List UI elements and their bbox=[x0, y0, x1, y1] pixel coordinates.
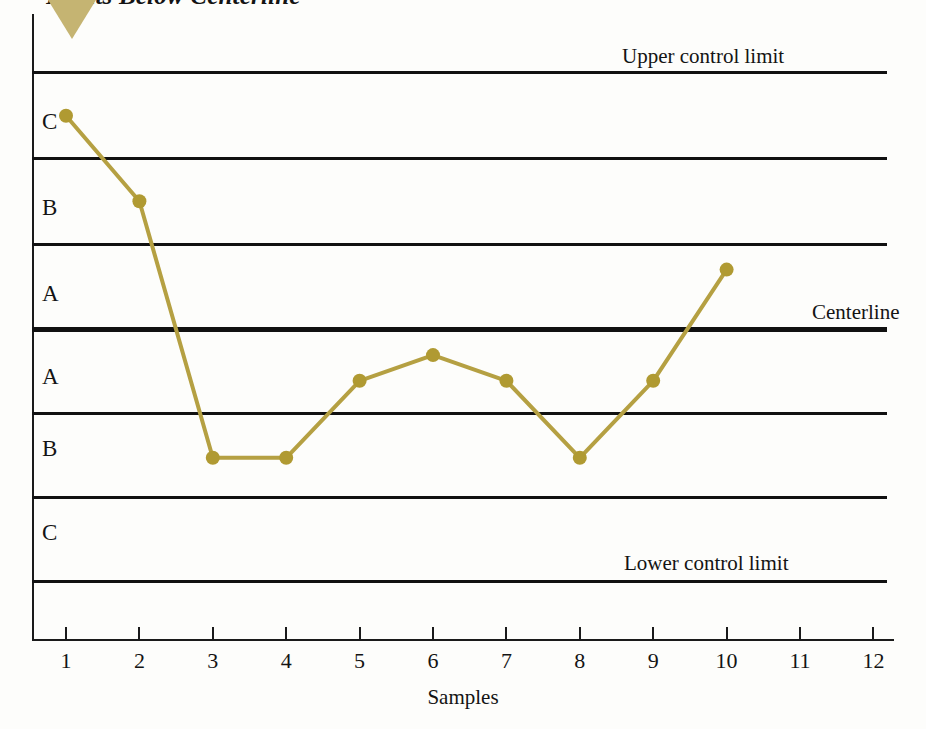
x-axis-tick-label: 2 bbox=[119, 648, 159, 674]
upper-control-limit-line bbox=[32, 71, 887, 74]
x-axis-tick bbox=[285, 627, 287, 640]
data-point-marker bbox=[132, 194, 146, 208]
x-axis-tick-label: 7 bbox=[486, 648, 526, 674]
lower-zone-b-c-line bbox=[32, 496, 887, 499]
x-axis-tick-label: 9 bbox=[633, 648, 673, 674]
data-point-marker bbox=[499, 374, 513, 388]
control-chart-figure: Points Below Centerline C B A A B C Uppe… bbox=[0, 0, 926, 729]
centerline-label: Centerline bbox=[812, 300, 899, 325]
x-axis-tick-label: 3 bbox=[193, 648, 233, 674]
x-axis-line bbox=[32, 639, 894, 641]
zone-label-lower-b: B bbox=[42, 437, 57, 460]
zone-label-upper-a: A bbox=[42, 282, 59, 305]
x-axis-tick-label: 11 bbox=[780, 648, 820, 674]
x-axis-tick-label: 8 bbox=[560, 648, 600, 674]
x-axis-tick-label: 1 bbox=[46, 648, 86, 674]
x-axis-tick-label: 5 bbox=[340, 648, 380, 674]
x-axis-tick bbox=[212, 627, 214, 640]
x-axis-tick bbox=[432, 627, 434, 640]
x-axis-tick-label: 10 bbox=[707, 648, 747, 674]
upper-zone-c-b-line bbox=[32, 157, 887, 160]
zone-label-lower-c: C bbox=[42, 521, 57, 544]
zone-label-upper-c: C bbox=[42, 110, 57, 133]
x-axis-title: Samples bbox=[0, 685, 926, 710]
x-axis-tick bbox=[65, 627, 67, 640]
centerline-line bbox=[32, 327, 887, 332]
data-point-marker bbox=[573, 451, 587, 465]
data-point-marker bbox=[353, 374, 367, 388]
data-point-marker bbox=[646, 374, 660, 388]
title-pointer-triangle-icon bbox=[48, 0, 96, 39]
lower-control-limit-label: Lower control limit bbox=[624, 551, 788, 576]
zone-label-upper-b: B bbox=[42, 196, 57, 219]
data-point-marker bbox=[206, 451, 220, 465]
lower-control-limit-line bbox=[32, 580, 887, 583]
data-point-marker bbox=[426, 348, 440, 362]
upper-control-limit-label: Upper control limit bbox=[622, 44, 784, 69]
upper-zone-b-a-line bbox=[32, 243, 887, 246]
x-axis-tick bbox=[359, 627, 361, 640]
data-series bbox=[0, 0, 926, 729]
x-axis-tick bbox=[579, 627, 581, 640]
x-axis-tick bbox=[799, 627, 801, 640]
data-point-marker bbox=[279, 451, 293, 465]
x-axis-tick bbox=[872, 627, 874, 640]
x-axis-tick bbox=[652, 627, 654, 640]
data-point-marker bbox=[720, 263, 734, 277]
x-axis-tick-label: 12 bbox=[853, 648, 893, 674]
lower-zone-a-b-line bbox=[32, 412, 887, 415]
x-axis-tick bbox=[726, 627, 728, 640]
x-axis-tick bbox=[505, 627, 507, 640]
x-axis-tick-label: 4 bbox=[266, 648, 306, 674]
x-axis-tick bbox=[138, 627, 140, 640]
x-axis-tick-label: 6 bbox=[413, 648, 453, 674]
data-point-marker bbox=[59, 109, 73, 123]
zone-label-lower-a: A bbox=[42, 365, 59, 388]
series-line bbox=[66, 116, 727, 458]
